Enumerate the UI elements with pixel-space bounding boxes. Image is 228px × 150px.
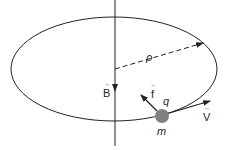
force-vector-mark-icon: →: [150, 82, 156, 88]
force-arrow: [141, 95, 157, 111]
particle: [155, 109, 169, 123]
mass-label: m: [157, 126, 166, 137]
diagram-graphics: [0, 0, 228, 150]
velocity-label: V: [203, 112, 210, 123]
radius-label: ρ: [146, 52, 152, 63]
orbit-ellipse: [11, 17, 217, 121]
velocity-vector-mark-icon: →: [204, 105, 210, 111]
radius-dashed-line: [115, 43, 203, 69]
field-arrowhead-icon: [112, 84, 118, 92]
field-vector-mark-icon: →: [104, 81, 110, 87]
charge-label: q: [163, 96, 169, 107]
force-label: f: [151, 89, 154, 100]
field-label: B: [103, 88, 110, 99]
diagram: ρ B → f → q V → m: [0, 0, 228, 150]
